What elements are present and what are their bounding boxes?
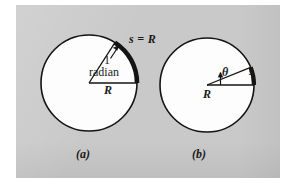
label-radius-b: R xyxy=(203,88,211,100)
panel-a-drawing xyxy=(41,35,137,131)
label-radius-a: R xyxy=(104,84,112,96)
figure-drawing xyxy=(0,0,290,188)
label-arc-length-s: s xyxy=(249,66,253,77)
panel-b-drawing xyxy=(160,38,254,132)
label-arc-length-equals-radius: s = R xyxy=(129,33,156,45)
label-radian: radian xyxy=(89,66,119,78)
caption-panel-a: (a) xyxy=(76,148,90,160)
caption-panel-b: (b) xyxy=(192,148,206,160)
label-theta: θ xyxy=(222,66,228,78)
radian-figure: s = R 1 radian R θ s R (a) (b) xyxy=(0,0,290,188)
